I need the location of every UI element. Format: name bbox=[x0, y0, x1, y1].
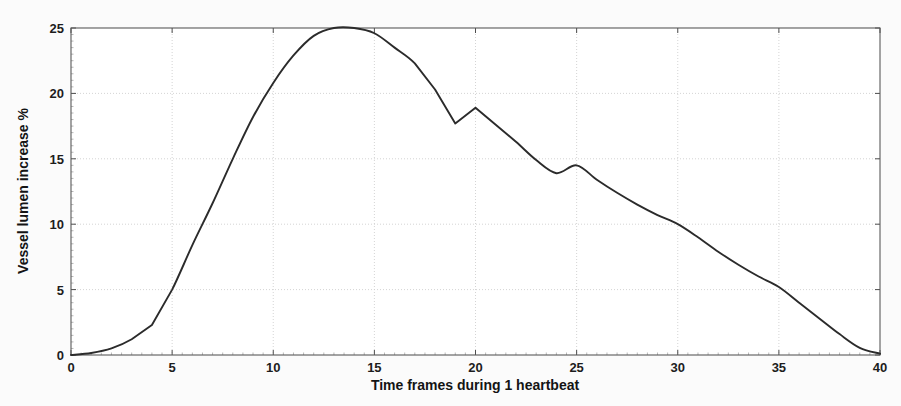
chart-page: 0510152025303540 0510152025 Time frames … bbox=[0, 0, 901, 406]
x-tick-label: 40 bbox=[873, 360, 887, 375]
y-tick-label: 25 bbox=[50, 21, 64, 36]
x-tick-label: 5 bbox=[169, 360, 176, 375]
plot-background bbox=[0, 0, 901, 406]
y-tick-label: 0 bbox=[57, 348, 64, 363]
y-axis-title: Vessel lumen increase % bbox=[15, 108, 31, 274]
y-tick-label: 10 bbox=[50, 217, 64, 232]
x-tick-label: 20 bbox=[468, 360, 482, 375]
x-tick-label: 25 bbox=[569, 360, 583, 375]
line-chart: 0510152025303540 0510152025 Time frames … bbox=[0, 0, 901, 406]
y-tick-label: 15 bbox=[50, 152, 64, 167]
x-tick-label: 35 bbox=[772, 360, 786, 375]
x-tick-label: 15 bbox=[367, 360, 381, 375]
y-tick-label: 5 bbox=[57, 283, 64, 298]
y-tick-label: 20 bbox=[50, 86, 64, 101]
x-axis-title: Time frames during 1 heartbeat bbox=[371, 377, 580, 393]
x-tick-label: 10 bbox=[266, 360, 280, 375]
x-tick-label: 0 bbox=[67, 360, 74, 375]
x-tick-label: 30 bbox=[671, 360, 685, 375]
